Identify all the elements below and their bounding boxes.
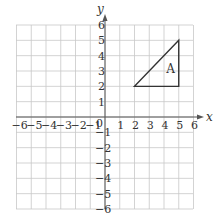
y-tick-label: −6	[95, 203, 111, 215]
x-tick-label: 4	[162, 119, 169, 132]
y-tick-label: 6	[98, 19, 105, 32]
coordinate-grid: −6−5−4−3−2−1123456654321−1−2−3−4−5−6 A y…	[0, 0, 218, 215]
y-tick-label: 5	[98, 34, 105, 47]
y-tick-label: −5	[95, 188, 111, 201]
y-tick-label: 1	[98, 96, 105, 109]
x-axis-arrow-icon	[197, 115, 204, 120]
y-tick-label: −4	[95, 172, 111, 185]
y-tick-label: −2	[95, 142, 111, 155]
y-axis-label: y	[96, 2, 104, 16]
x-tick-label: 3	[147, 119, 154, 132]
x-tick-label: 1	[117, 119, 124, 132]
y-tick-label: −3	[95, 157, 111, 170]
y-tick-label: 4	[98, 50, 105, 63]
y-tick-label: 2	[98, 80, 105, 93]
y-tick-label: 3	[98, 65, 105, 78]
x-tick-label: 2	[132, 119, 139, 132]
x-tick-label: 6	[191, 119, 198, 132]
x-tick-label: 5	[176, 119, 183, 132]
origin-label: 0	[96, 117, 103, 130]
triangle-a: A	[135, 40, 179, 86]
x-axis-label: x	[206, 110, 213, 124]
shape-label: A	[165, 62, 175, 76]
